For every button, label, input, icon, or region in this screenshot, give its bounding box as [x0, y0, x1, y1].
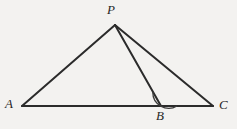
vertex-label-c: C — [219, 98, 228, 111]
segment-PC — [115, 25, 213, 106]
geometry-figure: P A B C — [0, 0, 237, 129]
vertex-label-b: B — [156, 109, 164, 122]
vertex-label-p: P — [107, 3, 115, 16]
segment-PB — [115, 25, 161, 106]
vertex-label-a: A — [5, 97, 13, 110]
segment-PA — [22, 25, 115, 106]
geometry-canvas — [0, 0, 237, 129]
